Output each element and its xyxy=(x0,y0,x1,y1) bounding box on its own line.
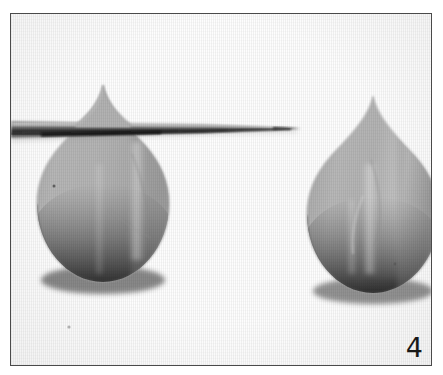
figure-plate: 4 xyxy=(0,0,443,375)
photograph-image xyxy=(11,14,431,365)
figure-number-label: 4 xyxy=(406,334,423,361)
scan-speck xyxy=(67,325,70,328)
photo-frame: 4 xyxy=(10,13,432,366)
